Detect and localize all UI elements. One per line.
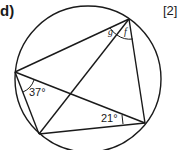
circle-theorem-diagram: 37° 21° g f: [0, 0, 182, 150]
angle-label-21: 21°: [101, 112, 118, 124]
angle-label-f: f: [124, 26, 128, 37]
angle-label-g: g: [108, 26, 113, 37]
chord-bottom-right: [39, 123, 145, 134]
chord-top-right: [129, 19, 145, 123]
angle-label-37: 37°: [29, 86, 46, 98]
angle-arc-21: [122, 115, 123, 124]
